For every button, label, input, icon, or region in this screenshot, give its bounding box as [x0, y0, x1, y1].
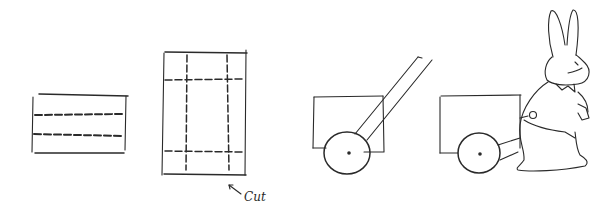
cut-pattern-drawing [162, 50, 247, 194]
folded-sheet-drawing [32, 94, 128, 153]
cut-label: Cut [244, 190, 266, 204]
cart-with-handle-drawing [313, 57, 432, 174]
sketch-canvas [0, 0, 612, 217]
rabbit-cart-drawing [440, 10, 589, 173]
